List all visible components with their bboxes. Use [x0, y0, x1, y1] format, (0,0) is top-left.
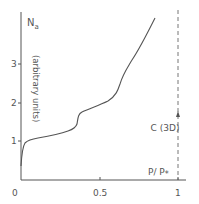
arrow-up-icon — [176, 111, 180, 117]
y-tick-label-2: 2 — [11, 98, 17, 108]
y-tick-label-3: 3 — [11, 59, 17, 69]
y-axis-units: (arbitrary units) — [31, 55, 41, 122]
isotherm-chart: 3 2 1 0 0.5 1 Na (arbitrary units) P/ P*… — [0, 0, 199, 204]
x-tick-label-05: 0.5 — [93, 188, 107, 198]
y-tick-label-1: 1 — [11, 136, 17, 146]
x-tick-label-1: 1 — [175, 188, 181, 198]
x-tick-label-0: 0 — [12, 188, 18, 198]
y-axis-title: Na — [27, 17, 39, 31]
c3d-label: C (3D) — [151, 123, 180, 133]
x-axis-title: P/ P* — [148, 167, 169, 179]
